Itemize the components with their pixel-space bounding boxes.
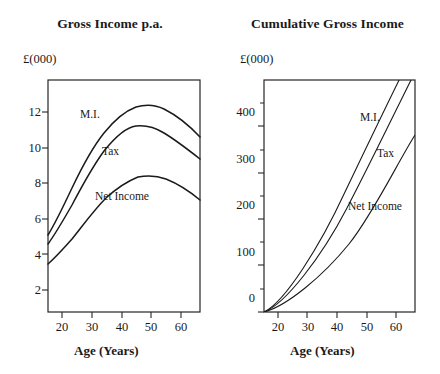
curve-tax-right	[264, 72, 415, 312]
y-axis-ticks-left	[42, 112, 48, 290]
y-axis-ticks-right	[258, 126, 264, 312]
plot-frame-right	[264, 80, 415, 312]
chart-panel-gross-income: Gross Income p.a. £(000) 12 10 8 6 4 2 2…	[0, 0, 220, 374]
plot-area-gross-income	[0, 0, 220, 374]
x-axis-ticks-right	[278, 312, 396, 318]
figure-two-income-charts: Gross Income p.a. £(000) 12 10 8 6 4 2 2…	[0, 0, 440, 374]
x-axis-ticks-left	[62, 312, 181, 318]
curve-mi-right	[264, 60, 409, 312]
plot-frame-left	[48, 80, 200, 312]
y-axis-minor-ticks-right	[260, 103, 264, 289]
curve-net-income-right	[264, 135, 415, 312]
plot-area-cumulative-gross-income	[215, 0, 440, 374]
curve-mi-left	[48, 105, 200, 235]
chart-panel-cumulative-gross-income: Cumulative Gross Income £(000) 400 300 2…	[215, 0, 440, 374]
